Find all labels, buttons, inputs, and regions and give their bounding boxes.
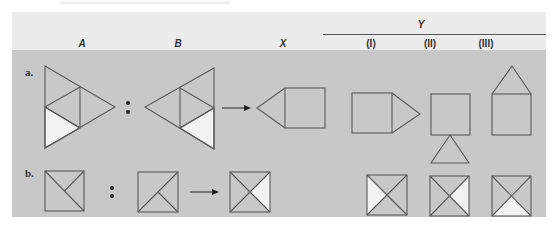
option-y1-a <box>352 93 420 133</box>
option-y2-b <box>430 176 469 216</box>
arrow-right-icon <box>222 105 251 111</box>
ratio-colon-icon <box>110 186 114 198</box>
option-y1-b <box>367 175 407 215</box>
triangle-figure-b <box>145 68 214 149</box>
figures-canvas <box>0 0 556 240</box>
figure-x-a <box>257 88 325 128</box>
figure-x-b <box>230 172 270 212</box>
option-y3-a <box>492 66 531 135</box>
option-y2-a <box>431 94 470 163</box>
square-figure-b <box>138 172 178 212</box>
square-figure-a <box>45 171 84 211</box>
option-y3-b <box>492 176 531 216</box>
ratio-colon-icon <box>126 101 130 114</box>
triangle-figure-a <box>45 66 115 148</box>
arrow-right-icon <box>190 189 219 195</box>
